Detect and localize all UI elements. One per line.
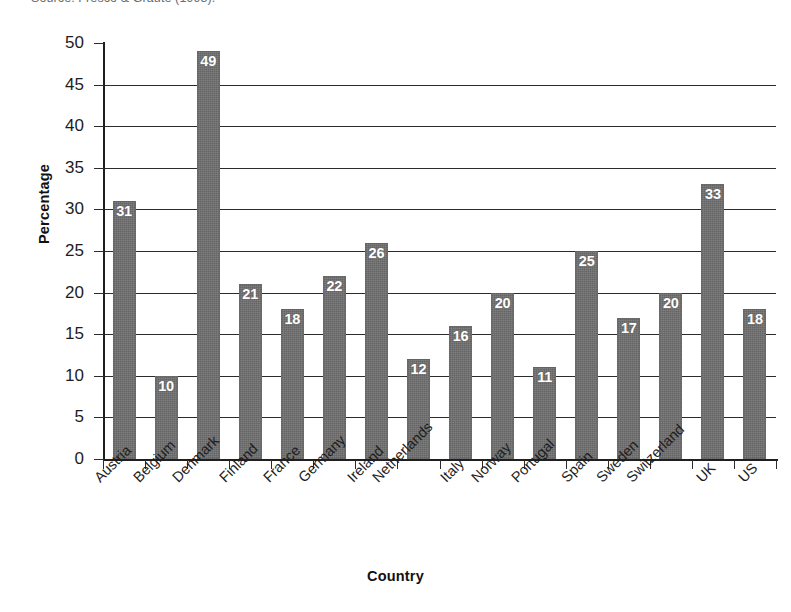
plot-area: 31104921182226121620112517203318 bbox=[103, 43, 776, 459]
y-tick-35 bbox=[94, 168, 104, 169]
bar-value-label: 25 bbox=[575, 253, 598, 269]
x-tick bbox=[734, 460, 735, 469]
bar-value-label: 20 bbox=[659, 295, 682, 311]
y-axis-title: Percentage bbox=[36, 144, 52, 264]
bar-value-label: 18 bbox=[743, 311, 766, 327]
bar-norway: 20 bbox=[491, 293, 514, 459]
y-tick-10 bbox=[94, 376, 104, 377]
x-tick bbox=[692, 460, 693, 469]
bar-france: 18 bbox=[281, 309, 304, 459]
y-tick-label-45: 45 bbox=[0, 75, 84, 95]
y-tick-50 bbox=[94, 43, 104, 44]
y-tick-45 bbox=[94, 85, 104, 86]
y-tick-20 bbox=[94, 293, 104, 294]
bar-value-label: 21 bbox=[239, 286, 262, 302]
bar-austria: 31 bbox=[113, 201, 136, 459]
bar-germany: 22 bbox=[323, 276, 346, 459]
y-tick-25 bbox=[94, 251, 104, 252]
bar-ireland: 26 bbox=[365, 243, 388, 459]
y-tick-label-40: 40 bbox=[0, 116, 84, 136]
bar-denmark: 49 bbox=[197, 51, 220, 459]
y-tick-5 bbox=[94, 417, 104, 418]
y-tick-label-20: 20 bbox=[0, 283, 84, 303]
bar-value-label: 11 bbox=[533, 369, 556, 385]
bar-value-label: 20 bbox=[491, 295, 514, 311]
x-tick bbox=[440, 460, 441, 469]
bar-value-label: 18 bbox=[281, 311, 304, 327]
y-tick-30 bbox=[94, 209, 104, 210]
bar-value-label: 49 bbox=[197, 53, 220, 69]
bar-value-label: 31 bbox=[113, 203, 136, 219]
bar-value-label: 33 bbox=[701, 186, 724, 202]
x-tick bbox=[776, 460, 777, 469]
y-tick-label-15: 15 bbox=[0, 324, 84, 344]
x-category-label-uk: UK bbox=[693, 460, 719, 486]
y-tick-label-0: 0 bbox=[0, 449, 84, 469]
bar-italy: 16 bbox=[449, 326, 472, 459]
bar-value-label: 10 bbox=[155, 378, 178, 394]
bar-value-label: 22 bbox=[323, 278, 346, 294]
bar-spain: 25 bbox=[575, 251, 598, 459]
y-tick-40 bbox=[94, 126, 104, 127]
bar-value-label: 26 bbox=[365, 245, 388, 261]
y-tick-label-10: 10 bbox=[0, 366, 84, 386]
bar-us: 18 bbox=[743, 309, 766, 459]
bar-value-label: 16 bbox=[449, 328, 472, 344]
bar-value-label: 12 bbox=[407, 361, 430, 377]
bar-uk: 33 bbox=[701, 184, 724, 459]
bar-value-label: 17 bbox=[617, 320, 640, 336]
bar-chart-figure: 31104921182226121620112517203318 0510152… bbox=[0, 0, 791, 612]
y-tick-label-5: 5 bbox=[0, 407, 84, 427]
x-axis-title: Country bbox=[0, 568, 791, 584]
x-category-label-us: US bbox=[735, 460, 761, 486]
y-tick-label-50: 50 bbox=[0, 33, 84, 53]
bar-finland: 21 bbox=[239, 284, 262, 459]
y-tick-15 bbox=[94, 334, 104, 335]
